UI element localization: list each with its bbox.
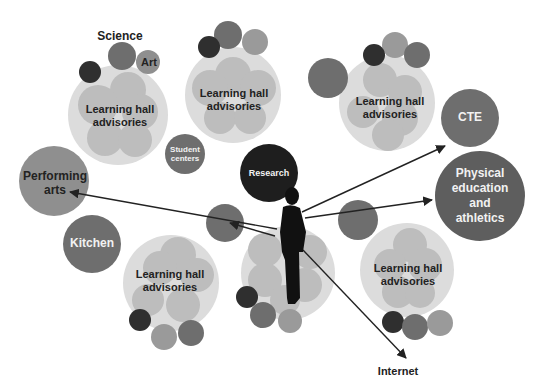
hall-label-top-left: Learning hall advisories [86, 103, 154, 128]
learning-hall-top-center [185, 21, 281, 143]
hall-label-top-center: Learning hall advisories [200, 87, 268, 112]
hall-label-bottom-left: Learning hall advisories [136, 268, 204, 293]
kitchen-label: Kitchen [70, 237, 114, 251]
internet-label: Internet [378, 365, 418, 378]
physical-education-label: Physical education and athletics [452, 166, 509, 226]
art-label: Art [141, 56, 157, 69]
student-centers-label: Student centers [170, 145, 200, 163]
learning-ecosystem-diagram: Science Art Student centers Research Per… [0, 0, 540, 390]
cte-label: CTE [458, 111, 482, 125]
performing-arts-label: Performing arts [23, 170, 87, 198]
hall-label-bottom-right: Learning hall advisories [374, 262, 442, 287]
hall-label-top-right: Learning hall advisories [356, 95, 424, 120]
research-label: Research [249, 168, 290, 178]
science-pod [108, 42, 136, 70]
learning-hall-center [206, 204, 335, 333]
learning-hall-top-right [308, 32, 435, 151]
science-label: Science [97, 30, 142, 44]
